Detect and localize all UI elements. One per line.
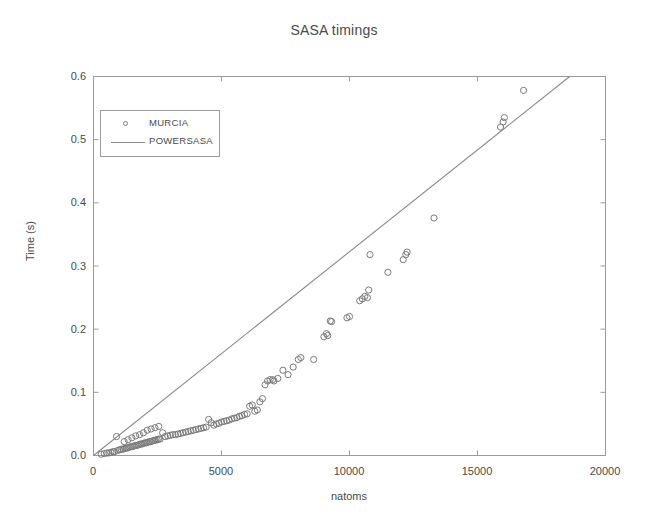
- legend-label-powersasa: POWERSASA: [149, 135, 213, 146]
- legend: MURCIA POWERSASA: [100, 110, 220, 157]
- legend-item-powersasa: POWERSASA: [101, 133, 219, 151]
- chart-figure: SASA timings Time (s) natoms 0.6 0.5 0.4…: [0, 0, 668, 527]
- open-circle-icon: [109, 115, 147, 133]
- line-swatch-icon: [109, 133, 147, 151]
- legend-label-murcia: MURCIA: [149, 117, 188, 128]
- legend-item-murcia: MURCIA: [101, 115, 219, 133]
- plot-area: [0, 0, 668, 527]
